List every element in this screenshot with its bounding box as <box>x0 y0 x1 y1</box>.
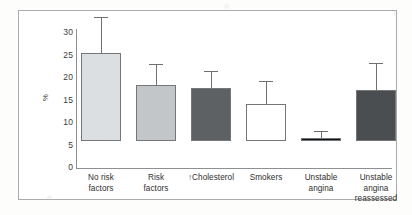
y-tick-label-5: 5 <box>51 141 73 150</box>
error-bar-stem <box>266 82 267 104</box>
label-line: reassessed <box>343 194 409 205</box>
error-bar-cap <box>369 63 383 64</box>
y-tick-label-15: 15 <box>51 96 73 105</box>
y-tick-label-0: 0 <box>51 163 73 172</box>
error-bar-stem <box>101 18 102 53</box>
label-line: Unstable <box>343 173 409 184</box>
x-axis-line <box>76 168 392 169</box>
y-tick-label-20: 20 <box>51 73 73 82</box>
y-tick-label-30: 30 <box>51 28 73 37</box>
error-bar-stem <box>156 65 157 86</box>
bar-chart-plot-area: 0 5 10 15 20 25 30 % <box>19 11 396 199</box>
label-line: angina <box>343 184 409 195</box>
y-axis-tick-labels: 0 5 10 15 20 25 30 <box>51 11 73 186</box>
error-bar-cap <box>314 131 328 132</box>
bar-cholesterol[interactable] <box>191 88 231 141</box>
x-tick-label-unstable-angina-reassessed: Unstable angina reassessed <box>343 173 409 205</box>
error-bar-cap <box>259 81 273 82</box>
y-axis-title: % <box>41 94 50 101</box>
figure-frame: 0 5 10 15 20 25 30 % <box>18 10 397 200</box>
error-bar-stem <box>376 64 377 90</box>
scanned-page-background: 0 5 10 15 20 25 30 % <box>0 0 412 215</box>
bar-unstable-angina-reassessed[interactable] <box>356 90 396 141</box>
error-bar-cap <box>149 64 163 65</box>
y-axis-line <box>76 29 77 168</box>
y-tick-label-25: 25 <box>51 51 73 60</box>
bar-risk-factors[interactable] <box>136 85 176 141</box>
error-bar-stem <box>211 72 212 88</box>
bar-smokers[interactable] <box>246 104 286 141</box>
error-bar-cap <box>94 17 108 18</box>
error-bar-cap <box>204 71 218 72</box>
bar-no-risk-factors[interactable] <box>81 53 121 141</box>
bar-unstable-angina[interactable] <box>301 138 341 141</box>
label-line: factors <box>123 184 189 195</box>
y-tick-label-10: 10 <box>51 118 73 127</box>
